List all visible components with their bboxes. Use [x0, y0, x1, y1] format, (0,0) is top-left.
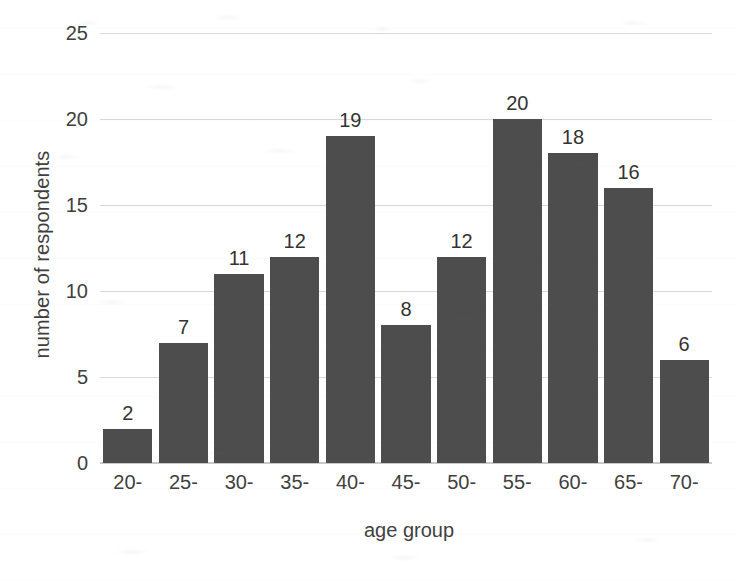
bar [103, 429, 152, 463]
bar-value-label: 12 [256, 231, 333, 251]
x-axis-title: age group [106, 519, 712, 542]
bar [159, 343, 208, 463]
x-axis-tick-label: 35- [267, 471, 323, 494]
bar [548, 153, 597, 463]
bar-value-label: 6 [646, 334, 723, 354]
bar-group: 18 [548, 33, 597, 463]
bar [437, 257, 486, 463]
bar-chart: number of respondents 0510152025 2711121… [0, 0, 736, 581]
bar-value-label: 8 [367, 299, 444, 319]
x-axis-tick-label: 40- [323, 471, 379, 494]
x-axis-tick-label: 60- [545, 471, 601, 494]
x-axis-tick-label: 65- [601, 471, 657, 494]
bar-group: 16 [604, 33, 653, 463]
gridline [100, 463, 712, 464]
x-axis-tick-label: 25- [156, 471, 212, 494]
x-axis-tick-label: 30- [211, 471, 267, 494]
y-axis-tick-labels: 0510152025 [42, 0, 88, 581]
bar [493, 119, 542, 463]
y-axis-tick-label: 15 [42, 194, 88, 217]
x-axis-tick-label: 50- [434, 471, 490, 494]
y-axis-tick-label: 0 [42, 452, 88, 475]
bar-value-label: 18 [534, 127, 611, 147]
y-axis-tick-label: 20 [42, 108, 88, 131]
bar-group: 6 [660, 33, 709, 463]
bar-value-label: 2 [89, 403, 166, 423]
bar-value-label: 16 [590, 162, 667, 182]
bar-value-label: 12 [423, 231, 500, 251]
bar-group: 20 [493, 33, 542, 463]
bar [214, 274, 263, 463]
bar-group: 2 [103, 33, 152, 463]
bar-value-label: 20 [479, 93, 556, 113]
x-axis-tick-labels: 20-25-30-35-40-45-50-55-60-65-70- [100, 471, 712, 501]
plot-area: 271112198122018166 [100, 33, 712, 463]
bars-layer: 271112198122018166 [100, 33, 712, 463]
x-axis-tick-label: 45- [378, 471, 434, 494]
bar-value-label: 19 [312, 110, 389, 130]
x-axis-tick-label: 70- [656, 471, 712, 494]
bar [381, 325, 430, 463]
bar [604, 188, 653, 463]
x-axis-tick-label: 55- [489, 471, 545, 494]
x-axis-tick-label: 20- [100, 471, 156, 494]
bar-group: 12 [270, 33, 319, 463]
bar [270, 257, 319, 463]
y-axis-tick-label: 10 [42, 280, 88, 303]
bar [660, 360, 709, 463]
y-axis-tick-label: 5 [42, 366, 88, 389]
bar-value-label: 11 [200, 248, 277, 268]
y-axis-tick-label: 25 [42, 22, 88, 45]
bar-group: 19 [326, 33, 375, 463]
bar-value-label: 7 [145, 317, 222, 337]
